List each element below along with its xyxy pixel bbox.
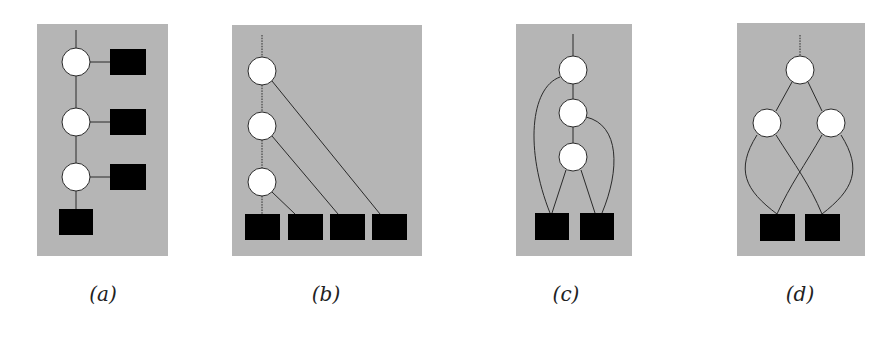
panel-a-background: [37, 24, 168, 256]
caption-a: (a): [89, 282, 117, 306]
observed-node: [805, 214, 840, 241]
panel-b: [232, 25, 422, 256]
latent-node: [559, 143, 587, 171]
caption-c: (c): [553, 282, 580, 306]
root-node: [786, 56, 814, 84]
observed-node: [288, 214, 323, 240]
observed-node: [110, 49, 146, 75]
observed-node: [580, 213, 614, 240]
caption-b: (b): [312, 282, 340, 306]
latent-node: [559, 99, 587, 127]
observed-node: [245, 214, 280, 240]
latent-node: [62, 48, 90, 76]
latent-node: [62, 163, 90, 191]
panel-c: [516, 24, 632, 256]
observed-node: [110, 109, 146, 135]
latent-node: [248, 57, 276, 85]
figure: [0, 0, 892, 343]
observed-node: [330, 214, 365, 240]
latent-node: [248, 112, 276, 140]
panel-a: [37, 24, 168, 256]
panel-d: [737, 23, 865, 256]
latent-node: [62, 108, 90, 136]
latent-node: [817, 109, 845, 137]
observed-node: [372, 214, 407, 240]
observed-node: [760, 214, 795, 241]
latent-node: [559, 56, 587, 84]
observed-node: [59, 209, 93, 235]
latent-node: [753, 109, 781, 137]
observed-node: [110, 164, 146, 190]
caption-d: (d): [786, 282, 814, 306]
observed-node: [535, 213, 569, 240]
latent-node: [248, 168, 276, 196]
